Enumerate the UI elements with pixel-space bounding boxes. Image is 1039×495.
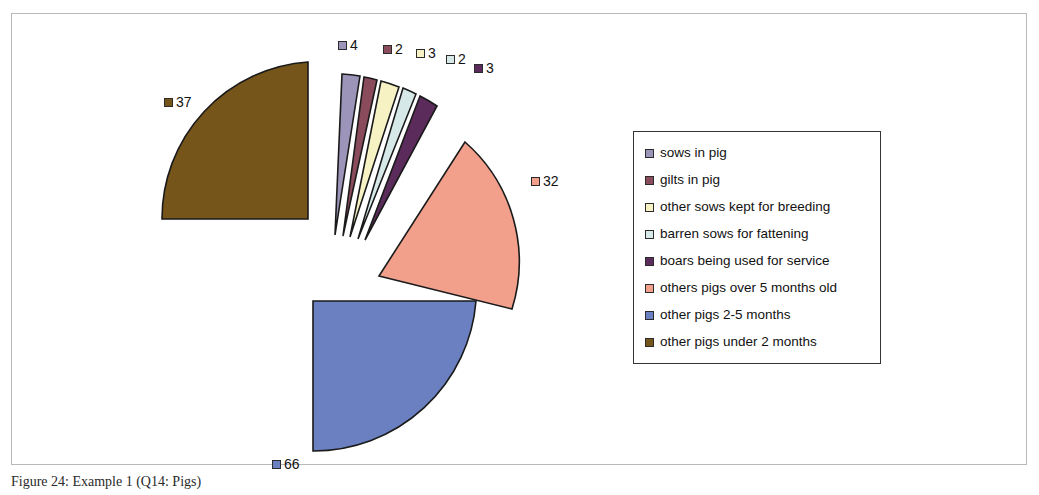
figure-root: 37 4 2 3 2 3: [0, 0, 1039, 495]
data-label-value: 37: [176, 95, 192, 109]
legend-item-barren-sows-for-fattening[interactable]: barren sows for fattening: [645, 222, 872, 246]
data-label-value: 32: [543, 174, 559, 188]
legend: sows in pig gilts in pig other sows kept…: [633, 131, 881, 364]
data-label-other-pigs-2-5-months: 66: [272, 457, 300, 471]
data-label-value: 3: [486, 61, 494, 75]
legend-swatch-other-sows-kept-for-breeding: [645, 203, 654, 212]
data-label-other-pigs-under-2-months: 37: [164, 95, 192, 109]
legend-swatch-other-pigs-2-5-months: [645, 311, 654, 320]
data-label-sows-in-pig: 4: [338, 38, 358, 52]
legend-item-other-pigs-2-5-months[interactable]: other pigs 2-5 months: [645, 303, 872, 327]
legend-label: other pigs under 2 months: [660, 335, 817, 349]
legend-item-other-sows-kept-for-breeding[interactable]: other sows kept for breeding: [645, 195, 872, 219]
legend-label: gilts in pig: [660, 173, 720, 187]
legend-label: sows in pig: [660, 146, 727, 160]
figure-caption: Figure 24: Example 1 (Q14: Pigs): [11, 474, 201, 495]
data-label-swatch: [416, 49, 425, 58]
data-label-others-pigs-over-5-months-old: 32: [531, 174, 559, 188]
pie-chart-svg: [12, 14, 652, 466]
data-label-barren-sows-for-fattening: 2: [446, 52, 466, 66]
data-label-value: 4: [350, 38, 358, 52]
legend-swatch-boars-being-used-for-service: [645, 257, 654, 266]
data-label-swatch: [272, 460, 281, 469]
data-label-swatch: [531, 177, 540, 186]
data-label-value: 2: [458, 52, 466, 66]
legend-swatch-others-pigs-over-5-months-old: [645, 284, 654, 293]
pie-plot-area: 37 4 2 3 2 3: [12, 14, 652, 466]
legend-label: boars being used for service: [660, 254, 830, 268]
pie-slice-other-pigs-2-5-months[interactable]: [313, 301, 476, 451]
data-label-other-sows-kept-for-breeding: 3: [416, 46, 436, 60]
data-label-value: 66: [284, 457, 300, 471]
legend-item-gilts-in-pig[interactable]: gilts in pig: [645, 168, 872, 192]
legend-label: barren sows for fattening: [660, 227, 809, 241]
pie-slice-other-pigs-under-2-months[interactable]: [162, 62, 308, 219]
data-label-value: 2: [395, 42, 403, 56]
legend-label: others pigs over 5 months old: [660, 281, 837, 295]
chart-frame: 37 4 2 3 2 3: [11, 13, 1027, 465]
legend-swatch-other-pigs-under-2-months: [645, 338, 654, 347]
legend-swatch-sows-in-pig: [645, 149, 654, 158]
data-label-swatch: [164, 98, 173, 107]
data-label-value: 3: [428, 46, 436, 60]
data-label-swatch: [338, 41, 347, 50]
legend-swatch-gilts-in-pig: [645, 176, 654, 185]
legend-label: other sows kept for breeding: [660, 200, 830, 214]
legend-item-other-pigs-under-2-months[interactable]: other pigs under 2 months: [645, 330, 872, 354]
data-label-swatch: [474, 64, 483, 73]
data-label-boars-being-used-for-service: 3: [474, 61, 494, 75]
data-label-gilts-in-pig: 2: [383, 42, 403, 56]
data-label-swatch: [446, 55, 455, 64]
legend-swatch-barren-sows-for-fattening: [645, 230, 654, 239]
data-label-swatch: [383, 45, 392, 54]
legend-item-boars-being-used-for-service[interactable]: boars being used for service: [645, 249, 872, 273]
legend-item-others-pigs-over-5-months-old[interactable]: others pigs over 5 months old: [645, 276, 872, 300]
legend-item-sows-in-pig[interactable]: sows in pig: [645, 141, 872, 165]
legend-label: other pigs 2-5 months: [660, 308, 791, 322]
